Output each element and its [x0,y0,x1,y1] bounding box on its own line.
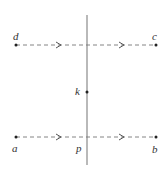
label-a: a [12,142,18,154]
point-c [155,44,158,47]
bottom-dashed-path [16,134,156,140]
label-b: b [152,143,158,155]
top-dashed-path [16,42,156,48]
label-k: k [75,85,81,97]
point-b [155,136,158,139]
label-c: c [152,30,157,42]
label-d: d [13,30,19,42]
point-d [15,44,18,47]
point-k [86,91,89,94]
diagram-canvas: d c k a p b [0,0,166,171]
label-p: p [75,142,82,154]
point-a [15,136,18,139]
